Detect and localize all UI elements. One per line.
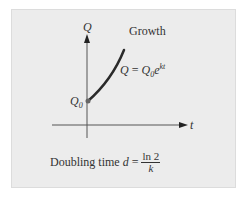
doubling-prefix: Doubling time: [50, 155, 120, 170]
y-axis-label: Q: [83, 20, 92, 35]
growth-equation: Q = Q0ekt: [120, 62, 165, 79]
eq-lhs: Q: [120, 63, 129, 77]
growth-curve: [88, 50, 124, 101]
initial-point-dot: [86, 99, 91, 104]
y-axis-arrow-icon: [84, 34, 90, 43]
eq-exponent: kt: [159, 62, 165, 71]
growth-title: Growth: [129, 24, 166, 39]
q-subscript: 0: [79, 101, 83, 110]
doubling-var: d: [123, 155, 129, 170]
q-symbol: Q: [70, 94, 79, 108]
x-axis-arrow-icon: [179, 122, 188, 128]
doubling-fraction: ln 2 k: [141, 151, 160, 174]
doubling-eq: =: [132, 155, 139, 170]
eq-sign: =: [129, 63, 142, 77]
fraction-denominator: k: [148, 163, 153, 174]
x-axis-label: t: [190, 118, 193, 133]
eq-base: Q: [141, 63, 150, 77]
initial-value-label: Q0: [70, 94, 83, 110]
doubling-time-formula: Doubling time d = ln 2 k: [50, 151, 160, 174]
